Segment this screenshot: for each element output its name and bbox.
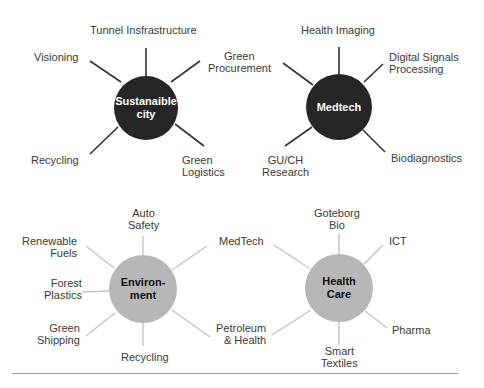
hub-title-line1: Health (322, 275, 356, 288)
label-visioning: Visioning (34, 51, 78, 63)
hub-title-line2: Care (322, 288, 356, 301)
label-goteborg-bio: Goteborg Bio (314, 207, 360, 231)
hub-title: Medtech (317, 101, 362, 114)
hub-environment: Environ- ment (109, 255, 177, 323)
label-auto-safety: Auto Safety (128, 207, 159, 231)
label-ict: ICT (389, 235, 407, 247)
label-green-procurement: Green Procurement (208, 50, 271, 74)
hub-health-care: Health Care (305, 254, 373, 322)
label-digital-signals: Digital Signals Processing (389, 51, 459, 75)
label-renewable-fuels: Renewable Fuels (22, 235, 77, 259)
label-tunnel-infrastructure: Tunnel Insfrastructure (90, 24, 197, 36)
hub-medtech: Medtech (306, 74, 372, 140)
label-smart-textiles: Smart Textiles (321, 345, 358, 369)
bottom-divider (12, 373, 458, 374)
label-green-shipping: Green Shipping (37, 322, 80, 346)
label-gu-ch-research: GU/CH Research (262, 154, 309, 178)
hub-title-line1: Sustanaible (115, 95, 177, 108)
hub-sustainable-city: Sustanaible city (114, 76, 178, 140)
hub-title-line2: ment (121, 289, 166, 302)
label-biodiagnostics: Biodiagnostics (391, 152, 462, 164)
label-forest-plastics: Forest Plastics (44, 277, 82, 301)
label-pharma: Pharma (392, 324, 431, 336)
hub-title-line1: Environ- (121, 276, 166, 289)
label-recycling-city: Recycling (31, 154, 79, 166)
label-medtech-link: MedTech (219, 235, 264, 247)
hub-title-line2: city (115, 108, 177, 121)
label-recycling-env: Recycling (121, 351, 169, 363)
label-green-logistics: Green Logistics (182, 154, 225, 178)
label-petroleum-health: Petroleum & Health (216, 322, 266, 346)
label-health-imaging: Health Imaging (301, 24, 375, 36)
